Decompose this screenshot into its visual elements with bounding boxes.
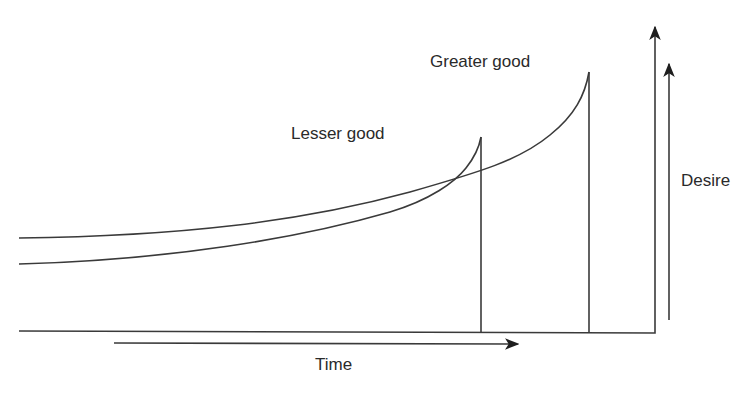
time-arrow bbox=[114, 343, 518, 344]
discounting-diagram: Lesser good Greater good Desire Time bbox=[0, 0, 753, 395]
baseline-with-desire-axis bbox=[19, 27, 655, 333]
greater-good-label: Greater good bbox=[430, 52, 530, 71]
lesser-good-curve bbox=[19, 137, 481, 264]
greater-good-curve bbox=[19, 72, 589, 238]
lesser-good-label: Lesser good bbox=[291, 124, 385, 143]
time-axis-label: Time bbox=[315, 355, 352, 374]
desire-axis-label: Desire bbox=[681, 171, 730, 190]
